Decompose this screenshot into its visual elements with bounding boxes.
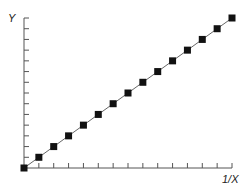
data-point-marker xyxy=(65,132,72,139)
data-point-marker xyxy=(184,47,191,54)
data-point-marker xyxy=(21,165,28,172)
data-series xyxy=(21,15,236,172)
line-chart: Y 1/X xyxy=(0,0,248,192)
data-point-marker xyxy=(50,143,57,150)
data-point-marker xyxy=(125,90,132,97)
data-point-marker xyxy=(214,25,221,32)
y-axis-label: Y xyxy=(8,12,16,24)
data-point-marker xyxy=(35,154,42,161)
data-point-marker xyxy=(199,36,206,43)
x-axis-label: 1/X xyxy=(222,173,239,185)
data-point-marker xyxy=(169,57,176,64)
data-point-marker xyxy=(229,15,236,22)
data-point-marker xyxy=(139,79,146,86)
data-point-marker xyxy=(80,122,87,129)
data-point-marker xyxy=(110,100,117,107)
data-point-marker xyxy=(154,68,161,75)
data-point-marker xyxy=(95,111,102,118)
